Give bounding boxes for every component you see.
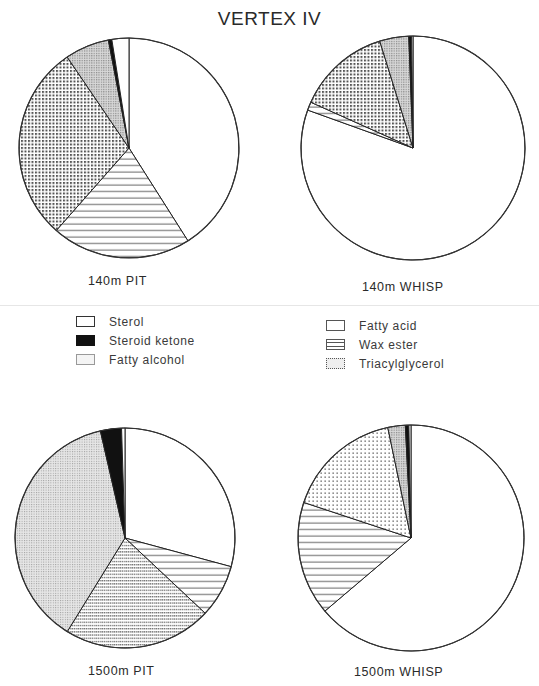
pie-label-1500m-whisp: 1500m WHISP <box>354 665 443 679</box>
legend-left: Sterol Steroid ketone Fatty alcohol <box>76 312 195 369</box>
pie-1500m-whisp <box>298 425 524 651</box>
legend-item-steroid-ketone: Steroid ketone <box>76 331 195 350</box>
steroid-ketone-swatch-icon <box>76 335 95 346</box>
pie-label-140m-whisp: 140m WHISP <box>362 280 444 294</box>
legend-item-sterol: Sterol <box>76 312 195 331</box>
legend-item-fatty-alcohol: Fatty alcohol <box>76 350 195 369</box>
legend-item-fatty-acid: Fatty acid <box>326 316 444 335</box>
legend-item-wax-ester: Wax ester <box>326 335 444 354</box>
wax-ester-swatch-icon <box>326 339 345 350</box>
divider <box>0 305 539 306</box>
legend-right: Fatty acid Wax ester Triacylglycerol <box>326 316 444 373</box>
legend-item-triacylglycerol: Triacylglycerol <box>326 354 444 373</box>
pie-140m-whisp <box>301 36 525 260</box>
fatty-alcohol-swatch-icon <box>76 354 95 365</box>
triacylglycerol-swatch-icon <box>326 358 345 369</box>
pie-label-140m-pit: 140m PIT <box>88 274 147 288</box>
pie-1500m-pit <box>15 428 235 648</box>
sterol-swatch-icon <box>76 316 95 327</box>
pie-140m-pit <box>19 38 239 258</box>
fatty-acid-swatch-icon <box>326 320 345 331</box>
pie-label-1500m-pit: 1500m PIT <box>88 664 155 678</box>
